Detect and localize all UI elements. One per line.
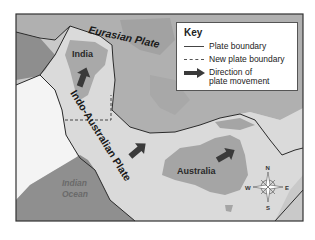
- key-label: plate movement: [209, 77, 269, 86]
- label-indian-ocean-2: Ocean: [62, 189, 88, 199]
- key-title: Key: [184, 27, 202, 38]
- key-label: Plate boundary: [209, 42, 266, 51]
- label-australia: Australia: [177, 166, 217, 176]
- map-key: Key Plate boundary New plate boundary Di…: [176, 22, 298, 91]
- arrow-icon: [184, 68, 206, 80]
- compass-n: N: [266, 165, 270, 171]
- label-india: India: [72, 49, 94, 59]
- dashed-line-icon: [184, 59, 204, 60]
- label-indian-ocean-1: Indian: [62, 178, 87, 188]
- compass-w: W: [245, 185, 251, 191]
- compass-e: E: [285, 185, 289, 191]
- solid-line-icon: [184, 46, 204, 47]
- compass-s: S: [266, 205, 270, 211]
- key-label: New plate boundary: [209, 55, 285, 64]
